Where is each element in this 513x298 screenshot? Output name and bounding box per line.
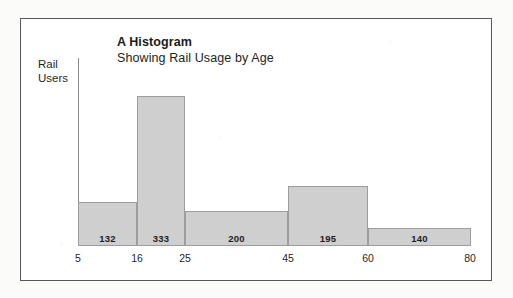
- bar-value-label: 132: [78, 233, 137, 244]
- plot-area: 13233320019514051625456080: [0, 0, 513, 298]
- bar-value-label: 195: [288, 233, 368, 244]
- x-tick-label: 80: [458, 252, 482, 264]
- histogram-bar: [137, 96, 185, 246]
- x-tick-label: 16: [125, 252, 149, 264]
- x-tick-label: 45: [276, 252, 300, 264]
- screenshot-canvas: A Histogram Showing Rail Usage by Age Ra…: [0, 0, 513, 298]
- x-tick-label: 60: [356, 252, 380, 264]
- bar-value-label: 200: [185, 233, 288, 244]
- bar-value-label: 140: [368, 233, 471, 244]
- x-tick-label: 5: [66, 252, 90, 264]
- bar-value-label: 333: [137, 233, 185, 244]
- x-tick-label: 25: [173, 252, 197, 264]
